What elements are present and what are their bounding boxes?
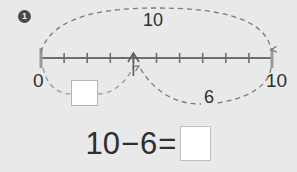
equation-row: 10 − 6 =: [0, 119, 297, 167]
equation-equals-sign: =: [157, 128, 177, 159]
total-arc-label: 10: [140, 11, 166, 29]
equation-subtrahend: 6: [140, 128, 157, 159]
difference-answer-box[interactable]: [71, 80, 98, 106]
axis-label-end: 10: [266, 71, 287, 90]
equation-minus-operator: −: [120, 128, 140, 159]
subtrahend-arc-label: 6: [201, 88, 217, 106]
axis-label-start: 0: [33, 71, 44, 90]
equation-minuend: 10: [86, 128, 120, 159]
equation-answer-box[interactable]: [180, 126, 211, 161]
worksheet-canvas: 1: [0, 0, 297, 172]
